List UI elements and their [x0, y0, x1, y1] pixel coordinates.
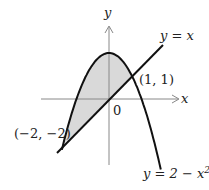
parabola-eq-exponent: 2 [204, 165, 209, 175]
y-axis-label: y [104, 6, 111, 19]
point-1-1-label: (1, 1) [139, 73, 174, 86]
parabola-eq-text: y = 2 − x [143, 166, 204, 181]
parabola-equation-label: y = 2 − x2 [143, 166, 209, 180]
x-axis-label: x [181, 92, 188, 105]
origin-label: 0 [113, 104, 121, 117]
diagram-canvas: y x 0 y = x (1, 1) (−2, −2) y = 2 − x2 [0, 0, 209, 190]
point-neg2-neg2-label: (−2, −2) [14, 127, 71, 140]
line-equation-label: y = x [160, 29, 194, 42]
